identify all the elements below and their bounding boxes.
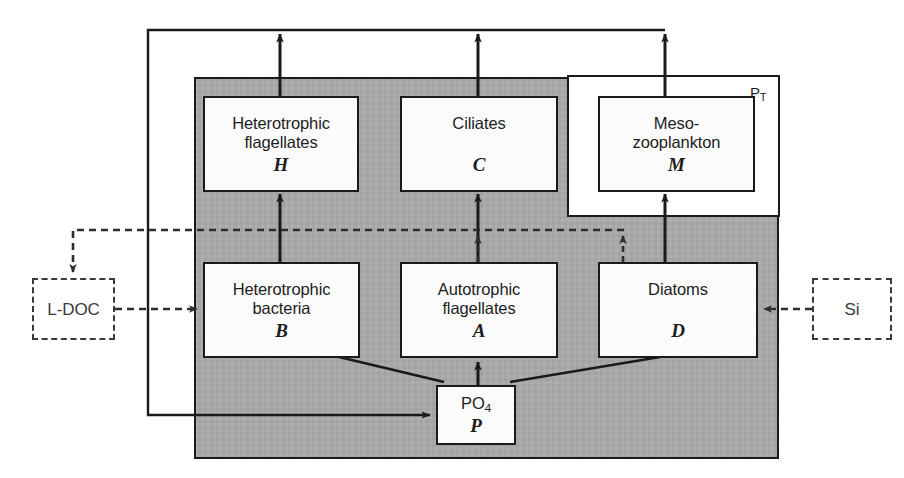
pt-compartment-label: PT <box>750 84 766 101</box>
node-label-line1: Diatoms <box>648 280 708 299</box>
node-label-line1: L-DOC <box>47 300 99 319</box>
node-label-line1: Heterotrophic <box>233 280 331 299</box>
node-l-doc[interactable]: L-DOC <box>32 278 115 340</box>
node-symbol: M <box>668 155 685 175</box>
node-diatoms[interactable]: Diatoms D <box>598 262 758 358</box>
node-label-line2: zooplankton <box>633 133 721 152</box>
node-symbol: P <box>470 416 482 436</box>
node-label-line1: Ciliates <box>452 114 505 133</box>
node-label-line2: flagellates <box>244 133 317 152</box>
node-label-line1: Autotrophic <box>438 280 520 299</box>
node-autotrophic-flagellates[interactable]: Autotrophic flagellates A <box>400 262 558 358</box>
node-silicate[interactable]: Si <box>812 278 892 340</box>
node-phosphate[interactable]: PO4 P <box>436 385 516 445</box>
node-heterotrophic-flagellates[interactable]: Heterotrophic flagellates H <box>203 96 359 192</box>
node-heterotrophic-bacteria[interactable]: Heterotrophic bacteria B <box>203 262 360 358</box>
node-symbol: B <box>275 321 288 341</box>
node-symbol: H <box>274 155 289 175</box>
node-label-line2: flagellates <box>442 299 515 318</box>
node-label-line1: Heterotrophic <box>232 114 330 133</box>
node-symbol: C <box>473 155 486 175</box>
node-label-line1: Meso- <box>654 114 699 133</box>
diagram-canvas: PT Heterotrophic flagellates H Ciliates … <box>0 0 904 478</box>
node-symbol: A <box>473 321 486 341</box>
node-label-line1: PO4 <box>461 394 491 415</box>
node-label-line2: bacteria <box>253 299 311 318</box>
node-symbol: D <box>671 321 685 341</box>
node-mesozooplankton[interactable]: Meso- zooplankton M <box>598 96 755 192</box>
node-label-line1: Si <box>845 300 860 319</box>
node-ciliates[interactable]: Ciliates C <box>400 96 558 192</box>
